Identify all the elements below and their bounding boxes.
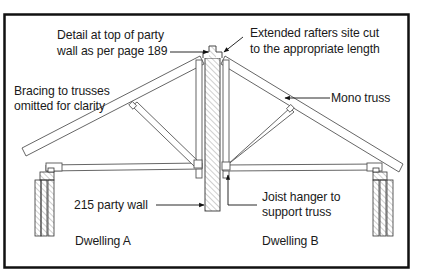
outer-wall-left (35, 168, 54, 236)
diagram-canvas: Detail at top of party wall as per page … (0, 0, 432, 271)
label-joist-hanger-line2: support truss (262, 205, 331, 219)
label-dwelling-b: Dwelling B (262, 234, 319, 248)
label-mono-truss: Mono truss (331, 91, 390, 105)
label-party-wall: 215 party wall (74, 198, 148, 212)
label-extended-rafters-line2: to the appropriate length (250, 42, 380, 56)
label-detail-top-line1: Detail at top of party (57, 28, 164, 42)
label-extended-rafters-line1: Extended rafters site cut (250, 26, 379, 40)
outer-wall-right (373, 168, 393, 236)
mono-truss-left (22, 56, 204, 178)
label-bracing-line1: Bracing to trusses (14, 84, 110, 98)
party-wall (203, 46, 222, 211)
leader-extended-rafters (224, 37, 243, 52)
leader-joist-hanger (228, 175, 257, 205)
mono-truss-right (221, 56, 403, 178)
label-detail-top-line2: wall as per page 189 (57, 44, 167, 58)
label-joist-hanger-line1: Joist hanger to (262, 190, 340, 204)
label-bracing-line2: omitted for clarity (14, 99, 105, 113)
leader-lines (156, 37, 330, 205)
label-dwelling-a: Dwelling A (75, 234, 131, 248)
